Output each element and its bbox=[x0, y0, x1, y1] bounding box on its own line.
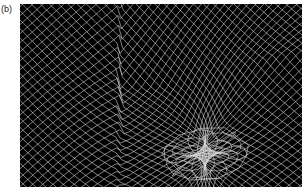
mesh-line-b-73 bbox=[20, 41, 196, 188]
mesh-line-a-57 bbox=[20, 4, 283, 187]
mesh-panel bbox=[20, 4, 302, 187]
mesh-line-a-46 bbox=[20, 4, 182, 133]
mesh-line-b-64 bbox=[20, 4, 270, 187]
warped-mesh-grid bbox=[20, 4, 302, 187]
mesh-line-b-46 bbox=[93, 4, 302, 187]
mesh-line-b-28 bbox=[259, 4, 302, 81]
mesh-line-a-43 bbox=[20, 4, 153, 105]
mesh-line-a-97 bbox=[297, 159, 302, 187]
panel-label: (b) bbox=[1, 4, 12, 14]
mesh-line-a-41 bbox=[20, 4, 135, 87]
mesh-line-b-31 bbox=[232, 4, 302, 106]
